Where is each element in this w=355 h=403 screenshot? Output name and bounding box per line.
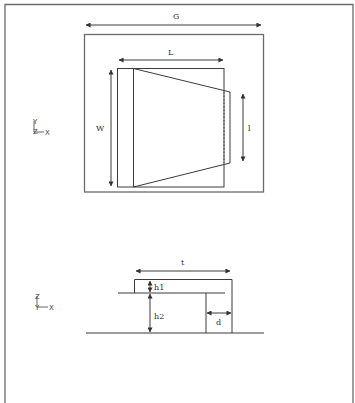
- z-axis-label: Z: [33, 128, 38, 136]
- antenna-dimension-diagram: Y Z X G L W l: [0, 0, 355, 403]
- z-axis-label: Z: [35, 293, 40, 301]
- dimension-g: G: [86, 12, 261, 25]
- x-axis-label: X: [49, 304, 54, 312]
- dimension-l-tip-label: l: [248, 124, 251, 133]
- top-view-axis-indicator: Y Z X: [32, 118, 50, 137]
- tapered-patch: [134, 69, 231, 188]
- dimension-l-length: L: [119, 48, 223, 60]
- dimension-d-label: d: [216, 318, 221, 327]
- dimension-g-label: G: [173, 12, 179, 21]
- dimension-d: d: [207, 313, 231, 327]
- top-view: Y Z X G L W l: [32, 12, 264, 192]
- dimension-l-length-label: L: [168, 48, 174, 57]
- y-axis-label: Y: [34, 304, 40, 312]
- dimension-l-tip: l: [243, 94, 251, 161]
- side-view-axis-indicator: Z Y X: [34, 293, 54, 312]
- dimension-t: t: [136, 258, 230, 271]
- x-axis-label: X: [45, 129, 50, 137]
- y-axis-label: Y: [32, 118, 38, 126]
- dimension-h1-label: h1: [154, 283, 164, 292]
- dimension-h2: h2: [150, 294, 164, 332]
- dimension-w: W: [96, 70, 111, 186]
- dimension-t-label: t: [181, 258, 185, 267]
- dimension-h2-label: h2: [154, 312, 164, 321]
- dimension-w-label: W: [96, 124, 105, 133]
- dimension-h1: h1: [150, 281, 164, 292]
- drawing-frame: [5, 5, 353, 403]
- side-view: Z Y X t h1 h2 d: [34, 258, 264, 333]
